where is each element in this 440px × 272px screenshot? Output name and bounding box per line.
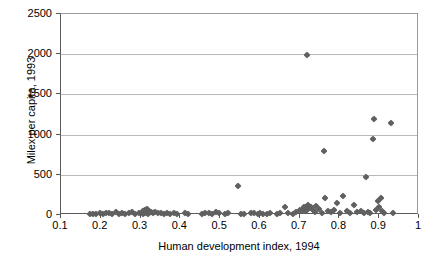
y-axis-tick-mark [56,174,60,175]
x-axis-tick-mark [418,214,419,218]
x-axis-tick-label: 0.6 [239,219,279,231]
data-point [303,51,310,58]
gridline-y [61,135,417,136]
data-point [390,209,397,216]
y-axis-tick-mark [56,13,60,14]
x-axis-tick-label: 0.2 [80,219,120,231]
x-axis-tick-label: 0.7 [279,219,319,231]
x-axis-tick-label: 0.5 [199,219,239,231]
data-point [234,183,241,190]
x-axis-tick-mark [100,214,101,218]
x-axis-tick-mark [140,214,141,218]
x-axis-tick-mark [338,214,339,218]
x-axis-tick-mark [259,214,260,218]
x-axis-tick-label: 0.3 [120,219,160,231]
x-axis-tick-label: 0.1 [40,219,80,231]
gridline-y [61,94,417,95]
data-point [321,147,328,154]
scatter-chart: 050010001500200025000.10.20.30.40.50.60.… [0,0,440,272]
data-point [185,210,192,217]
plot-area [60,13,418,214]
x-axis-tick-mark [179,214,180,218]
data-point [370,135,377,142]
x-axis-tick-label: 0.9 [358,219,398,231]
data-point [388,119,395,126]
x-axis-tick-mark [378,214,379,218]
x-axis-title: Human development index, 1994 [60,240,418,253]
y-axis-tick-mark [56,134,60,135]
y-axis-tick-mark [56,93,60,94]
data-point [340,192,347,199]
x-axis-tick-label: 0.8 [318,219,358,231]
y-axis-title: Milex per capita, 1993 [25,16,38,206]
x-axis-tick-mark [60,214,61,218]
data-point [350,201,357,208]
x-axis-tick-label: 1 [398,219,438,231]
data-point [322,195,329,202]
x-axis-tick-mark [219,214,220,218]
y-axis-tick-label: 0 [0,209,52,220]
x-axis-tick-label: 0.4 [159,219,199,231]
y-axis-tick-mark [56,53,60,54]
data-point [380,209,387,216]
x-axis-tick-mark [299,214,300,218]
data-point [333,199,340,206]
data-point [371,115,378,122]
gridline-y [61,54,417,55]
